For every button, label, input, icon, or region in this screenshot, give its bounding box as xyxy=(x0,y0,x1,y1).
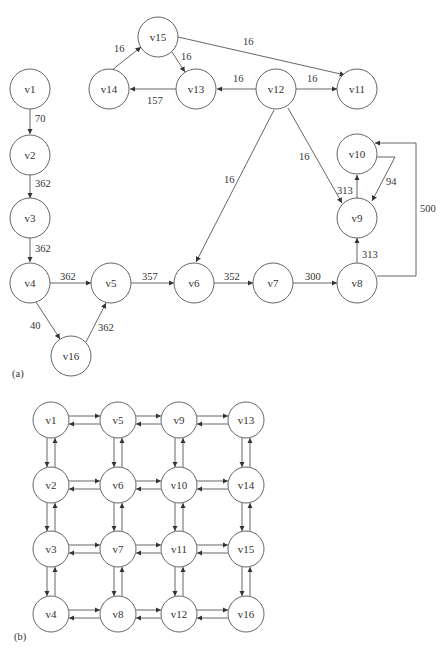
grid-node-v4: v4 xyxy=(33,596,69,632)
graph-figure: 70 362 362 362 40 362 357 352 300 xyxy=(0,0,445,652)
grid-node-v5: v5 xyxy=(100,402,136,438)
svg-text:v3: v3 xyxy=(46,543,58,555)
weight-v4-v16: 40 xyxy=(30,320,41,331)
weight-v12-v6: 16 xyxy=(224,174,235,185)
node-v6: v6 xyxy=(174,263,214,303)
grid-node-v10: v10 xyxy=(161,467,197,503)
panel-a: 70 362 362 362 40 362 357 352 300 xyxy=(10,17,436,380)
svg-text:v14: v14 xyxy=(101,83,118,95)
weight-v2-v3: 362 xyxy=(35,178,51,189)
weight-v16-v5: 362 xyxy=(98,322,114,333)
grid-node-v6: v6 xyxy=(100,467,136,503)
node-v10: v10 xyxy=(337,134,377,174)
svg-text:v9: v9 xyxy=(174,414,186,426)
weight-v14-v15: 16 xyxy=(114,43,125,54)
node-v5: v5 xyxy=(91,263,131,303)
weight-v15-v11: 16 xyxy=(243,36,254,47)
node-v4: v4 xyxy=(10,263,50,303)
grid-node-v3: v3 xyxy=(33,531,69,567)
node-v2: v2 xyxy=(10,135,50,175)
weight-v8-v10: 500 xyxy=(420,203,436,214)
svg-text:v1: v1 xyxy=(46,414,57,426)
svg-text:v10: v10 xyxy=(349,148,366,160)
svg-text:v6: v6 xyxy=(113,479,125,491)
svg-text:v10: v10 xyxy=(171,479,188,491)
panel-b-label: (b) xyxy=(14,631,27,643)
weight-v15-v13: 16 xyxy=(181,51,192,62)
svg-text:v12: v12 xyxy=(268,83,285,95)
svg-text:v4: v4 xyxy=(46,608,58,620)
svg-text:v16: v16 xyxy=(63,350,80,362)
node-v8: v8 xyxy=(337,263,377,303)
weight-v12-v13: 16 xyxy=(233,73,244,84)
weight-v9-v10: 313 xyxy=(337,185,353,196)
weight-v5-v6: 357 xyxy=(142,271,158,282)
svg-text:v5: v5 xyxy=(113,414,125,426)
weight-v6-v7: 352 xyxy=(224,271,240,282)
weight-v12-v9: 16 xyxy=(299,151,310,162)
node-v12: v12 xyxy=(256,69,296,109)
weight-v1-v2: 70 xyxy=(35,113,46,124)
svg-text:v3: v3 xyxy=(25,212,37,224)
svg-text:v5: v5 xyxy=(106,277,118,289)
svg-text:v12: v12 xyxy=(171,608,188,620)
grid-node-v14: v14 xyxy=(228,467,264,503)
grid-node-v11: v11 xyxy=(161,531,197,567)
svg-text:v14: v14 xyxy=(238,479,255,491)
svg-text:v9: v9 xyxy=(352,212,364,224)
svg-text:v4: v4 xyxy=(25,277,37,289)
svg-text:v16: v16 xyxy=(238,608,255,620)
weight-v3-v4: 362 xyxy=(35,243,51,254)
panel-a-nodes: v1 v2 v3 v4 v5 v6 v7 v8 v9 v10 v11 v12 v… xyxy=(10,17,377,376)
grid-node-v12: v12 xyxy=(161,596,197,632)
svg-text:v2: v2 xyxy=(46,479,57,491)
grid-node-v16: v16 xyxy=(228,596,264,632)
weight-v7-v8: 300 xyxy=(305,271,321,282)
weight-v8-v9: 313 xyxy=(362,249,378,260)
edge-v15-v11 xyxy=(178,37,345,75)
edge-v8-v10 xyxy=(375,143,416,276)
weight-v4-v5: 362 xyxy=(60,271,76,282)
node-v13: v13 xyxy=(176,69,216,109)
node-v14: v14 xyxy=(89,69,129,109)
node-v11: v11 xyxy=(337,69,377,109)
edge-v12-v6 xyxy=(196,110,274,262)
node-v7: v7 xyxy=(253,263,293,303)
svg-text:v13: v13 xyxy=(188,83,205,95)
weight-v13-v14: 157 xyxy=(147,95,163,106)
svg-text:v11: v11 xyxy=(349,83,365,95)
svg-text:v11: v11 xyxy=(171,543,187,555)
svg-text:v2: v2 xyxy=(25,149,36,161)
panel-a-label: (a) xyxy=(12,368,24,380)
grid-node-v8: v8 xyxy=(100,596,136,632)
edge-v12-v9 xyxy=(288,108,342,203)
grid-node-v2: v2 xyxy=(33,467,69,503)
grid-node-v9: v9 xyxy=(161,402,197,438)
node-v16: v16 xyxy=(51,336,91,376)
grid-node-v13: v13 xyxy=(228,402,264,438)
node-v3: v3 xyxy=(10,198,50,238)
svg-text:v6: v6 xyxy=(189,277,201,289)
weight-v12-v11: 16 xyxy=(307,73,318,84)
node-v15: v15 xyxy=(138,17,178,57)
node-v1: v1 xyxy=(10,69,50,109)
svg-text:v8: v8 xyxy=(352,277,364,289)
svg-text:v1: v1 xyxy=(25,83,36,95)
svg-text:v7: v7 xyxy=(268,277,280,289)
svg-text:v7: v7 xyxy=(113,543,125,555)
grid-node-v15: v15 xyxy=(228,531,264,567)
svg-text:v13: v13 xyxy=(238,414,255,426)
grid-node-v1: v1 xyxy=(33,402,69,438)
panel-b: v1v5v9v13v2v6v10v14v3v7v11v15v4v8v12v16 xyxy=(33,402,264,632)
svg-text:v15: v15 xyxy=(238,543,255,555)
svg-text:v8: v8 xyxy=(113,608,125,620)
svg-text:v15: v15 xyxy=(150,31,167,43)
node-v9: v9 xyxy=(337,198,377,238)
grid-node-v7: v7 xyxy=(100,531,136,567)
weight-v10-v9: 94 xyxy=(386,176,397,187)
